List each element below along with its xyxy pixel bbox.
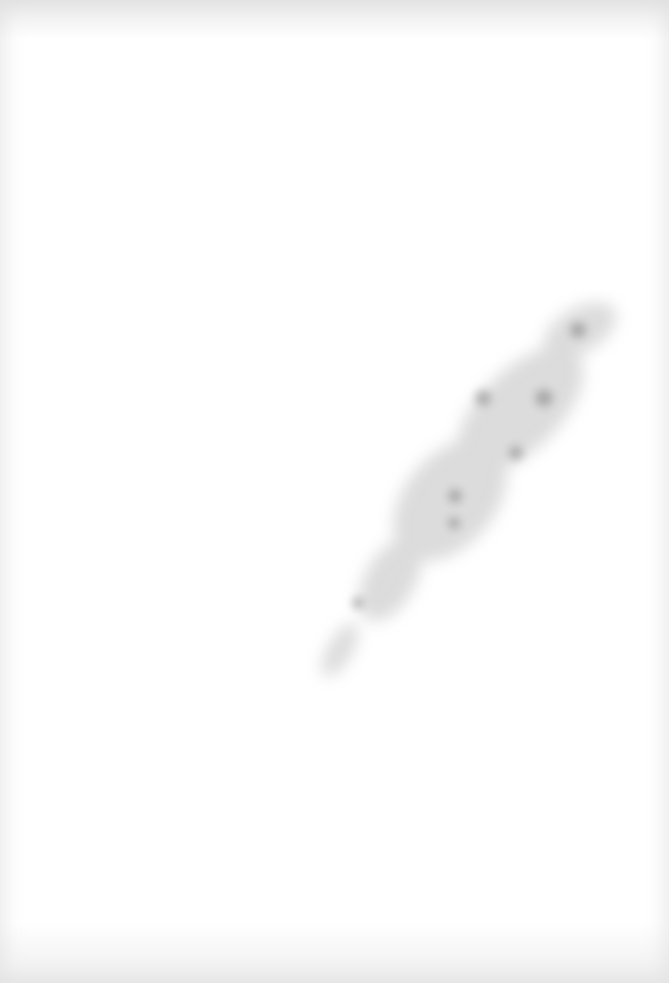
scan-edge-shadow-top <box>0 0 669 40</box>
scanned-page <box>0 0 669 983</box>
scan-edge-shadow-bottom <box>0 923 669 983</box>
smudge-mark <box>280 290 640 710</box>
